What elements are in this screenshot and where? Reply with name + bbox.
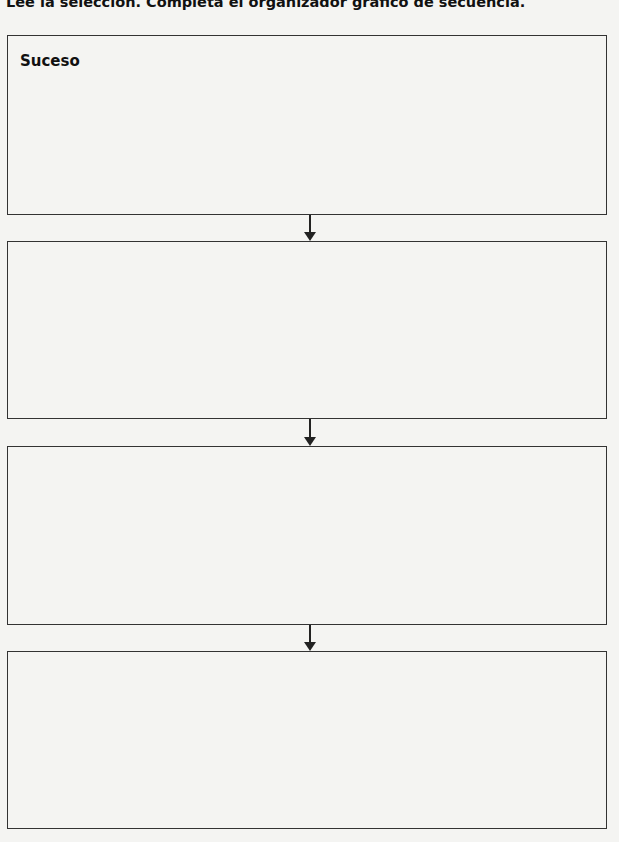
instructions-heading: Lee la selección. Completa el organizado… [6, 0, 525, 10]
sequence-box-3[interactable] [7, 446, 607, 625]
down-arrow-icon [304, 625, 316, 651]
down-arrow-icon [304, 215, 316, 241]
sequence-box-4[interactable] [7, 651, 607, 829]
box-label-suceso: Suceso [20, 52, 80, 70]
sequence-box-2[interactable] [7, 241, 607, 419]
sequence-box-1[interactable]: Suceso [7, 35, 607, 215]
down-arrow-icon [304, 419, 316, 446]
